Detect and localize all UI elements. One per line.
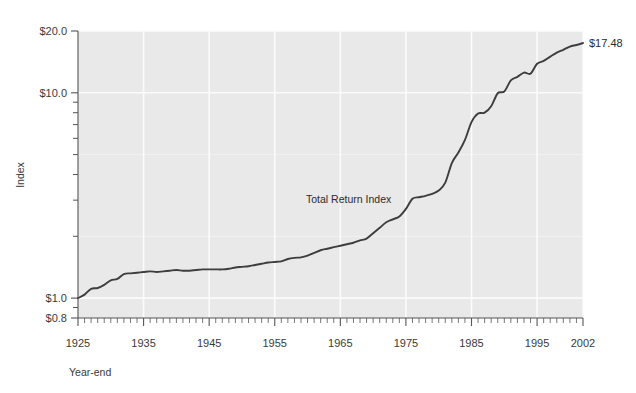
y-tick-label: $0.8 xyxy=(46,312,67,324)
x-axis-title: Year-end xyxy=(69,366,111,378)
total-return-index-chart: $20.0$10.0$1.0$0.8 192519351945195519651… xyxy=(0,0,636,393)
y-tick-label: $20.0 xyxy=(39,25,67,37)
y-axis-title: Index xyxy=(14,161,26,187)
x-tick-label: 1925 xyxy=(66,337,90,349)
x-tick-label: 1945 xyxy=(197,337,221,349)
x-tick-label: 1965 xyxy=(328,337,352,349)
x-tick-label: 1995 xyxy=(525,337,549,349)
x-tick-label: 2002 xyxy=(571,337,595,349)
x-tick-label: 1955 xyxy=(263,337,287,349)
endpoint-value-label: $17.48 xyxy=(589,37,623,49)
y-tick-label: $10.0 xyxy=(39,87,67,99)
x-tick-label: 1935 xyxy=(131,337,155,349)
chart-figure: $20.0$10.0$1.0$0.8 192519351945195519651… xyxy=(0,0,636,393)
x-tick-label: 1985 xyxy=(459,337,483,349)
series-annotation-label: Total Return Index xyxy=(306,193,392,205)
y-tick-label: $1.0 xyxy=(46,292,67,304)
x-tick-label: 1975 xyxy=(394,337,418,349)
plot-area-background xyxy=(78,31,583,318)
